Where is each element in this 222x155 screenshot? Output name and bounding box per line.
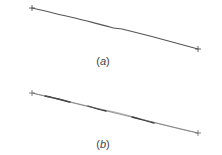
panel-a-start-cross-icon: [29, 5, 35, 11]
panel-a-drawing: [0, 0, 222, 155]
figure: (a) (b): [0, 0, 222, 155]
caption-a-close: ): [106, 55, 110, 67]
panel-a-end-cross-icon: [195, 46, 201, 52]
panel-b-caption: (b): [83, 138, 123, 150]
panel-b-end-cross-icon: [195, 130, 201, 136]
caption-b-close: ): [106, 138, 110, 150]
panel-b-start-cross-icon: [29, 90, 35, 96]
panel-a-wavy-line: [32, 8, 198, 49]
panel-a-caption: (a): [83, 55, 123, 67]
